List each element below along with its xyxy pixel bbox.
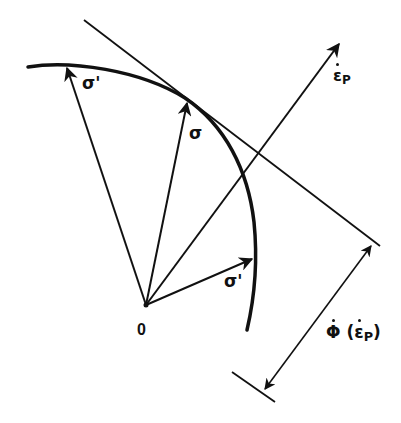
dissipation-arg-symbol: ε (354, 324, 363, 341)
stress-right-label: σ' (224, 273, 242, 290)
stress-center-label: σ (189, 125, 202, 142)
yield-surface-diagram: 0 σ' σ σ' εP Φ (εP) (0, 0, 401, 423)
origin-label: 0 (137, 322, 146, 338)
origin-point (144, 303, 149, 308)
strain-rate-symbol: ε (333, 68, 342, 84)
dissipation-label: Φ (εP) (326, 324, 381, 344)
parallel-line-tick (232, 372, 275, 402)
dissipation-dimension-line (265, 246, 371, 389)
dissipation-arg-subscript: P (364, 329, 373, 344)
stress-left-label: σ' (82, 75, 100, 92)
strain-rate-label: εP (333, 68, 351, 86)
paren-close: ) (373, 322, 381, 342)
strain-rate-subscript: P (342, 73, 351, 87)
strain-rate-vector (146, 44, 339, 305)
stress-vector-center (146, 103, 187, 305)
paren-open: ( (346, 322, 354, 342)
tangent-line (84, 20, 380, 246)
stress-vector-left (67, 68, 146, 305)
dissipation-symbol: Φ (326, 324, 340, 341)
diagram-canvas (0, 0, 401, 423)
time-derivative-dot (358, 319, 361, 322)
